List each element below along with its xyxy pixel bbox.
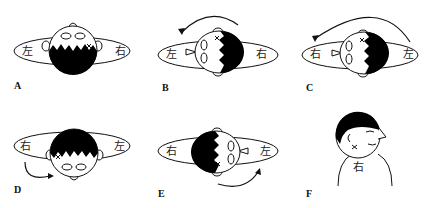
panel-label: C [306,82,313,93]
rotation-arrow-icon [25,162,50,177]
panel-label: A [14,80,21,91]
panel-label: E [158,188,165,199]
panel-b: 左 右 B [140,0,290,104]
right-side-text: 左 [114,141,125,152]
body-text: 右 [353,162,364,173]
left-side-text: 左 [166,49,177,60]
rotation-arrow-icon [218,172,258,186]
right-side-text: 左 [403,49,414,60]
panel-label: D [14,184,21,195]
left-side-text: 右 [310,49,321,60]
panel-e: 右 左 E [140,104,290,208]
right-side-text: 左 [260,146,271,157]
panel-d: 右 左 D [0,104,145,208]
left-side-text: 右 [166,146,177,157]
right-side-text: 右 [115,46,126,57]
panel-c: 右 左 C [290,0,431,104]
panel-label: F [306,188,312,199]
panel-f: 右 F [290,104,431,208]
left-side-text: 左 [22,46,33,57]
left-side-text: 右 [20,141,31,152]
panel-label: B [162,82,169,93]
rotation-arrow-icon [182,16,238,32]
head-topview-icon [0,104,145,208]
right-side-text: 右 [256,49,267,60]
panel-a: 左 右 A [0,0,145,104]
